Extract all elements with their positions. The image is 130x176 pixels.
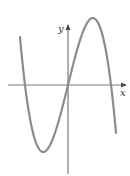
cubic-graph-figure: y x — [0, 0, 130, 176]
x-axis-label: x — [120, 87, 126, 98]
y-axis-label: y — [57, 23, 64, 34]
